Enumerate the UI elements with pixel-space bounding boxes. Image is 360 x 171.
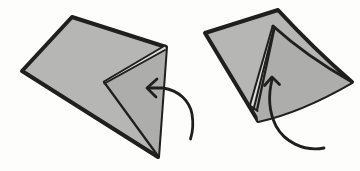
origami-diagram-stage: [0, 0, 360, 171]
origami-diagram: [0, 0, 360, 171]
